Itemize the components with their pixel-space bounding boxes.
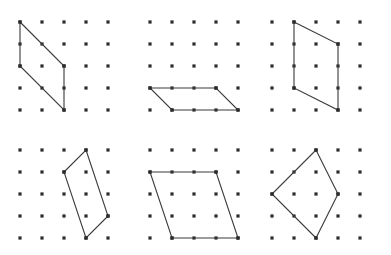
grid-dot xyxy=(336,148,339,151)
grid-dot xyxy=(18,148,21,151)
grid-dot xyxy=(170,148,173,151)
grid-dot xyxy=(236,42,239,45)
grid-dot xyxy=(170,214,173,217)
vertex-dot xyxy=(236,108,239,111)
grid-dot xyxy=(314,64,317,67)
grid-dot xyxy=(314,20,317,23)
panel-3 xyxy=(270,20,361,111)
grid-dot xyxy=(170,64,173,67)
grid-dot xyxy=(18,86,21,89)
grid-dot xyxy=(270,42,273,45)
grid-dot xyxy=(358,64,361,67)
grid-dot xyxy=(62,214,65,217)
vertex-dot xyxy=(292,86,295,89)
grid-dot xyxy=(106,108,109,111)
grid-dot xyxy=(236,20,239,23)
grid-dot xyxy=(84,108,87,111)
grid-dot xyxy=(192,214,195,217)
grid-dot xyxy=(358,42,361,45)
grid-dot xyxy=(214,148,217,151)
grid-dot xyxy=(148,192,151,195)
grid-dot xyxy=(270,214,273,217)
grid-dot xyxy=(84,64,87,67)
grid-dot xyxy=(292,192,295,195)
vertex-dot xyxy=(62,64,65,67)
vertex-dot xyxy=(170,236,173,239)
grid-dot xyxy=(336,20,339,23)
vertex-dot xyxy=(292,20,295,23)
grid-dot xyxy=(270,108,273,111)
grid-dot xyxy=(358,192,361,195)
grid-dot xyxy=(214,20,217,23)
grid-dot xyxy=(358,86,361,89)
grid-dot xyxy=(40,64,43,67)
vertex-dot xyxy=(18,20,21,23)
grid-dot xyxy=(40,20,43,23)
panel-6-vertices xyxy=(270,148,339,239)
grid-dot xyxy=(18,192,21,195)
grid-dot xyxy=(192,20,195,23)
grid-dot xyxy=(192,64,195,67)
grid-dot xyxy=(148,236,151,239)
vertex-dot xyxy=(18,64,21,67)
grid-dot xyxy=(336,170,339,173)
grid-dot xyxy=(18,236,21,239)
grid-dot xyxy=(106,148,109,151)
grid-dot xyxy=(84,214,87,217)
grid-dot xyxy=(40,236,43,239)
grid-dot xyxy=(270,236,273,239)
grid-dot xyxy=(40,214,43,217)
panel-5-vertices xyxy=(148,170,239,239)
grid-dot xyxy=(292,236,295,239)
panel-1 xyxy=(18,20,109,111)
grid-dot xyxy=(292,108,295,111)
grid-dot xyxy=(84,192,87,195)
grid-dot xyxy=(358,148,361,151)
grid-dot xyxy=(292,148,295,151)
panel-5 xyxy=(148,148,239,239)
vertex-dot xyxy=(106,214,109,217)
grid-dot xyxy=(148,64,151,67)
grid-dot xyxy=(62,42,65,45)
grid-dot xyxy=(40,170,43,173)
grid-dot xyxy=(40,192,43,195)
grid-dot xyxy=(358,20,361,23)
panel-4-dot-grid xyxy=(18,148,109,239)
grid-dot xyxy=(214,42,217,45)
grid-dot xyxy=(148,108,151,111)
vertex-dot xyxy=(148,86,151,89)
panel-2-parallelogram xyxy=(150,88,238,110)
grid-dot xyxy=(236,64,239,67)
grid-dot xyxy=(84,20,87,23)
vertex-dot xyxy=(336,42,339,45)
grid-dot xyxy=(214,64,217,67)
grid-dot xyxy=(148,148,151,151)
grid-dot xyxy=(358,236,361,239)
vertex-dot xyxy=(148,170,151,173)
grid-dot xyxy=(170,42,173,45)
panel-2 xyxy=(148,20,239,111)
grid-dot xyxy=(192,42,195,45)
grid-dot xyxy=(270,148,273,151)
vertex-dot xyxy=(214,86,217,89)
grid-dot xyxy=(236,214,239,217)
grid-dot xyxy=(270,86,273,89)
grid-dot xyxy=(236,192,239,195)
grid-dot xyxy=(84,170,87,173)
vertex-dot xyxy=(214,170,217,173)
grid-dot xyxy=(314,108,317,111)
vertex-dot xyxy=(62,108,65,111)
panel-6-dot-grid xyxy=(270,148,361,239)
grid-dot xyxy=(40,148,43,151)
panel-5-parallelogram xyxy=(150,172,238,238)
grid-dot xyxy=(18,170,21,173)
grid-dot xyxy=(170,20,173,23)
grid-dot xyxy=(62,192,65,195)
grid-dot xyxy=(62,148,65,151)
grid-dot xyxy=(62,236,65,239)
vertex-dot xyxy=(336,192,339,195)
grid-dot xyxy=(84,86,87,89)
grid-dot xyxy=(314,192,317,195)
panel-6 xyxy=(270,148,361,239)
grid-dot xyxy=(336,236,339,239)
